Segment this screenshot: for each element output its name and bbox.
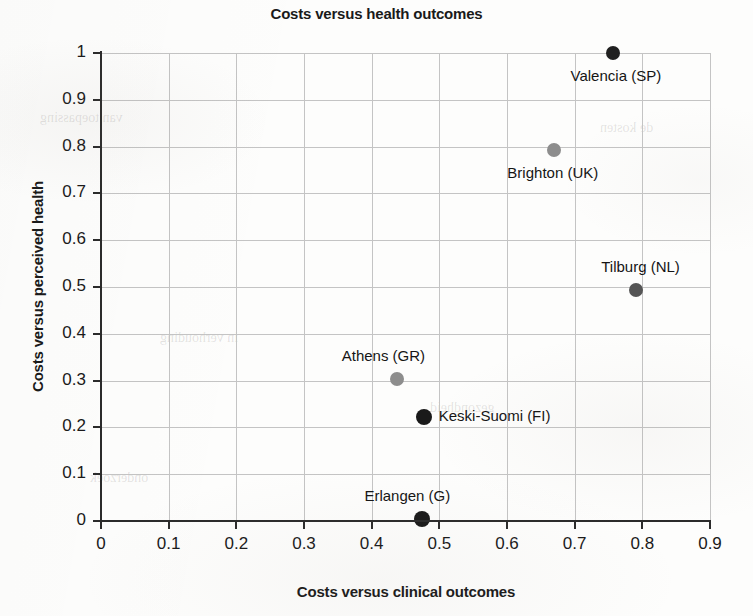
x-tick-6 xyxy=(506,521,508,529)
data-point-label-0: Valencia (SP) xyxy=(571,67,662,84)
data-point-2[interactable] xyxy=(629,283,643,297)
x-tick-label-5: 0.5 xyxy=(409,534,469,554)
x-tick-label-7: 0.7 xyxy=(545,534,605,554)
gridline-horizontal-1 xyxy=(101,474,710,475)
y-tick-label-8: 0.8 xyxy=(0,136,86,156)
y-tick-8 xyxy=(93,146,101,148)
data-point-3[interactable] xyxy=(390,372,404,386)
gridline-horizontal-8 xyxy=(101,147,710,148)
x-tick-label-6: 0.6 xyxy=(477,534,537,554)
x-tick-2 xyxy=(235,521,237,529)
x-axis-line xyxy=(100,520,711,522)
data-point-label-5: Erlangen (G) xyxy=(364,487,450,504)
data-point-0[interactable] xyxy=(606,46,620,60)
x-tick-9 xyxy=(709,521,711,529)
x-tick-5 xyxy=(438,521,440,529)
y-tick-label-10: 1 xyxy=(0,42,86,62)
gridline-horizontal-5 xyxy=(101,287,710,288)
y-tick-label-4: 0.4 xyxy=(0,323,86,343)
data-point-label-2: Tilburg (NL) xyxy=(601,258,680,275)
data-point-label-3: Athens (GR) xyxy=(342,347,425,364)
x-tick-label-2: 0.2 xyxy=(206,534,266,554)
data-point-label-4: Keski-Suomi (FI) xyxy=(439,407,551,424)
x-tick-label-3: 0.3 xyxy=(274,534,334,554)
y-tick-label-6: 0.6 xyxy=(0,229,86,249)
y-tick-7 xyxy=(93,192,101,194)
x-tick-label-9: 0.9 xyxy=(680,534,740,554)
data-point-label-1: Brighton (UK) xyxy=(507,164,598,181)
y-tick-label-7: 0.7 xyxy=(0,182,86,202)
y-tick-label-3: 0.3 xyxy=(0,370,86,390)
plot-area xyxy=(101,53,710,521)
x-tick-7 xyxy=(574,521,576,529)
x-tick-4 xyxy=(371,521,373,529)
gridline-horizontal-3 xyxy=(101,381,710,382)
y-tick-3 xyxy=(93,380,101,382)
x-tick-1 xyxy=(168,521,170,529)
y-tick-label-9: 0.9 xyxy=(0,89,86,109)
y-tick-label-1: 0.1 xyxy=(0,463,86,483)
gridline-horizontal-2 xyxy=(101,427,710,428)
chart-title: Costs versus health outcomes xyxy=(0,5,753,22)
gridline-horizontal-9 xyxy=(101,100,710,101)
y-tick-2 xyxy=(93,426,101,428)
x-tick-0 xyxy=(100,521,102,529)
y-tick-label-2: 0.2 xyxy=(0,416,86,436)
data-point-4[interactable] xyxy=(416,409,432,425)
y-tick-1 xyxy=(93,473,101,475)
y-tick-10 xyxy=(93,52,101,54)
y-tick-4 xyxy=(93,333,101,335)
x-tick-label-0: 0 xyxy=(71,534,131,554)
data-point-1[interactable] xyxy=(547,143,561,157)
gridline-vertical-9 xyxy=(710,53,711,521)
y-tick-5 xyxy=(93,286,101,288)
x-tick-label-4: 0.4 xyxy=(342,534,402,554)
x-axis-title: Costs versus clinical outcomes xyxy=(101,583,711,600)
x-tick-label-8: 0.8 xyxy=(612,534,672,554)
y-tick-label-0: 0 xyxy=(0,510,86,530)
gridline-horizontal-4 xyxy=(101,334,710,335)
y-tick-label-5: 0.5 xyxy=(0,276,86,296)
gridline-horizontal-7 xyxy=(101,193,710,194)
x-tick-label-1: 0.1 xyxy=(139,534,199,554)
y-tick-9 xyxy=(93,99,101,101)
x-tick-3 xyxy=(303,521,305,529)
gridline-horizontal-6 xyxy=(101,240,710,241)
x-tick-8 xyxy=(641,521,643,529)
y-tick-6 xyxy=(93,239,101,241)
